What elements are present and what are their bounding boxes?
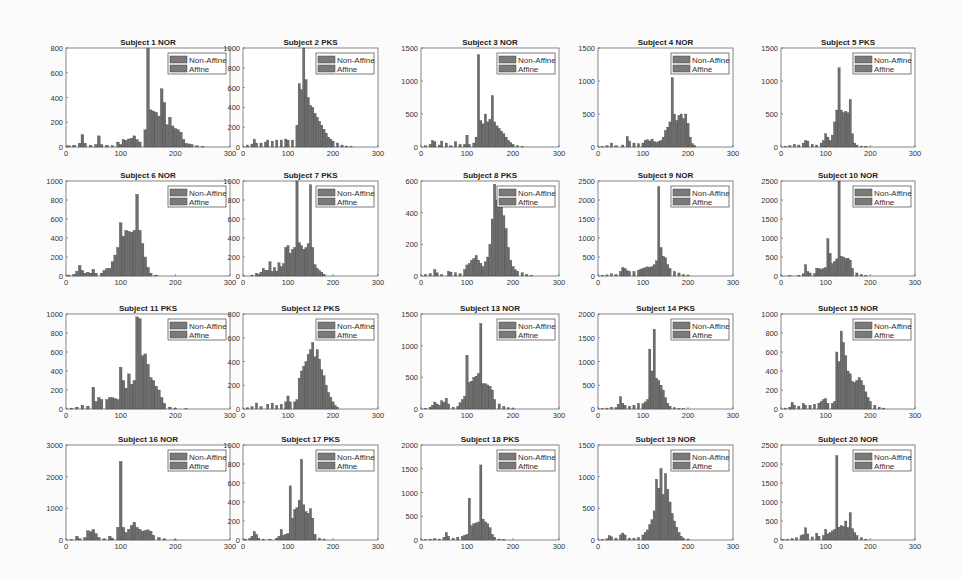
histogram-bar xyxy=(141,531,144,540)
x-tick-label: 100 xyxy=(282,278,295,287)
histogram-panel: Subject 12 PKS01002003000200400600800Non… xyxy=(227,304,384,420)
histogram-bar xyxy=(845,356,847,409)
histogram-bar xyxy=(122,527,125,540)
histogram-bar xyxy=(136,194,139,276)
histogram-bar xyxy=(128,139,131,147)
legend-label: Non-Affine xyxy=(518,189,556,198)
histogram-bar xyxy=(429,539,431,540)
histogram-bar xyxy=(464,535,466,540)
histogram-bar xyxy=(505,137,507,147)
histogram-bar xyxy=(251,275,253,276)
histogram-bar xyxy=(680,114,682,147)
histogram-bar xyxy=(827,403,829,409)
histogram-bar xyxy=(475,523,477,540)
histogram-bar xyxy=(285,248,287,277)
histogram-bar xyxy=(111,146,114,147)
histogram-bar xyxy=(667,127,669,147)
y-tick-label: 200 xyxy=(227,381,240,390)
histogram-bar xyxy=(838,527,840,540)
histogram-bar xyxy=(271,271,273,276)
histogram-bar xyxy=(255,403,257,409)
x-tick-label: 0 xyxy=(779,411,783,420)
legend-label: Non-Affine xyxy=(337,453,375,462)
legend: Non-AffineAffine xyxy=(168,319,227,340)
histogram-bar xyxy=(249,539,251,540)
histogram-panel: Subject 10 NOR01002003000500100015002000… xyxy=(761,171,921,287)
histogram-bar xyxy=(296,400,298,410)
histogram-bar xyxy=(854,532,856,540)
histogram-bar xyxy=(307,98,309,148)
y-tick-label: 200 xyxy=(227,253,240,262)
histogram-bar xyxy=(155,386,158,409)
histogram-bar xyxy=(649,141,651,147)
histogram-bar xyxy=(840,110,842,147)
histogram-bar xyxy=(473,524,475,540)
histogram-bar xyxy=(457,406,459,409)
y-tick-label: 2500 xyxy=(761,441,778,450)
histogram-bar xyxy=(845,259,847,276)
histogram-bar xyxy=(136,527,139,540)
histogram-bar xyxy=(190,145,193,147)
histogram-bar xyxy=(854,382,856,409)
x-tick-label: 0 xyxy=(419,149,423,158)
legend-swatch xyxy=(318,198,335,205)
histogram-bar xyxy=(298,84,300,147)
y-tick-label: 500 xyxy=(405,512,418,521)
histogram-bar xyxy=(133,522,136,540)
x-tick-label: 100 xyxy=(819,542,832,551)
legend-label: Non-Affine xyxy=(874,189,912,198)
legend-label: Non-Affine xyxy=(692,322,730,331)
histogram-bar xyxy=(434,270,436,276)
histogram-bar xyxy=(144,130,147,147)
histogram-bar xyxy=(789,407,791,409)
legend-label: Non-Affine xyxy=(518,322,556,331)
histogram-bar xyxy=(336,407,338,409)
legend-label: Affine xyxy=(874,65,895,74)
histogram-bar xyxy=(615,274,617,276)
histogram-bar xyxy=(860,538,862,540)
histogram-bar xyxy=(667,403,669,409)
x-tick-label: 300 xyxy=(224,411,237,420)
histogram-bar xyxy=(155,112,158,147)
histogram-bar xyxy=(813,404,815,409)
histogram-bar xyxy=(459,144,461,147)
legend-swatch xyxy=(170,65,187,72)
histogram-bar xyxy=(678,115,680,147)
histogram-bar xyxy=(136,317,139,409)
legend: Non-AffineAffine xyxy=(853,186,912,207)
histogram-bar xyxy=(196,146,199,147)
histogram-bar xyxy=(498,404,500,409)
histogram-bar xyxy=(309,350,311,409)
histogram-bar xyxy=(493,184,495,276)
x-tick-label: 300 xyxy=(727,542,740,551)
y-tick-label: 600 xyxy=(227,479,240,488)
histogram-bar xyxy=(147,530,150,540)
y-tick-label: 1000 xyxy=(401,342,418,351)
y-tick-label: 2500 xyxy=(761,177,778,186)
legend-label: Non-Affine xyxy=(692,453,730,462)
histogram-bar xyxy=(811,537,813,540)
y-tick-label: 1500 xyxy=(401,310,418,319)
histogram-bar xyxy=(327,392,329,409)
y-tick-label: 1000 xyxy=(578,77,595,86)
histogram-bar xyxy=(660,468,662,540)
histogram-bar xyxy=(480,121,482,147)
histogram-bar xyxy=(660,140,662,147)
histogram-bar xyxy=(76,536,79,540)
histogram-bar xyxy=(811,144,813,147)
histogram-bar xyxy=(253,531,255,540)
x-tick-label: 100 xyxy=(461,542,474,551)
y-tick-label: 200 xyxy=(50,118,63,127)
histogram-bar xyxy=(454,142,456,147)
y-tick-label: 500 xyxy=(582,381,595,390)
histogram-bar xyxy=(487,385,489,409)
histogram-bar xyxy=(477,374,479,409)
x-tick-label: 300 xyxy=(909,411,922,420)
histogram-bar xyxy=(269,539,271,540)
legend-swatch xyxy=(499,189,516,196)
y-tick-label: 0 xyxy=(236,536,240,545)
histogram-bar xyxy=(498,203,500,276)
legend-swatch xyxy=(170,453,187,460)
legend-swatch xyxy=(673,453,690,460)
histogram-panel: Subject 6 NOR010020030002004006008001000… xyxy=(46,171,236,287)
